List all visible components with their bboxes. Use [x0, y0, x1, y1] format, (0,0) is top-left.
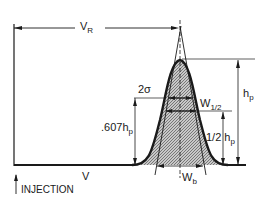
- x-axis-label: V: [82, 171, 89, 182]
- hp-label: hp: [243, 88, 254, 100]
- half-width-label: W1/2: [200, 98, 222, 110]
- injection-label: INJECTION: [21, 184, 74, 195]
- chromatogram-diagram: VR hp 2σ W1/2 .607hp 1/2 hp Wb V INJECTI…: [0, 0, 259, 206]
- frac-height-label: .607hp: [101, 122, 133, 134]
- vr-label: VR: [80, 21, 93, 33]
- base-width-label: Wb: [182, 172, 197, 184]
- sigma-label: 2σ: [138, 84, 151, 95]
- half-height-label: 1/2 hp: [206, 132, 235, 144]
